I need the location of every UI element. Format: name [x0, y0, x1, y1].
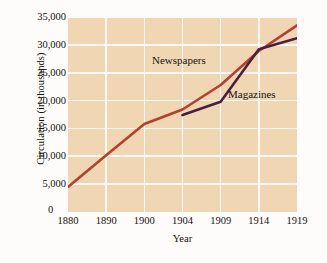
- x-tick-label: 1919: [287, 215, 308, 226]
- y-tick-label: 25,000: [22, 67, 66, 78]
- y-tick-label: 30,000: [22, 40, 66, 51]
- y-tick-label: 35,000: [22, 12, 66, 23]
- x-tick-label: 1900: [134, 215, 155, 226]
- series-line-newspapers: [68, 25, 297, 187]
- chart-figure: Circulation (in thousands) 05,00010,0001…: [0, 0, 327, 263]
- x-tick-label: 1890: [96, 215, 117, 226]
- x-axis-title: Year: [68, 233, 297, 244]
- y-axis-zero-label: 0: [48, 204, 53, 215]
- series-line-magazines: [183, 38, 298, 115]
- y-tick-label: 10,000: [22, 151, 66, 162]
- x-axis-tick-labels: 1880189019001904190919141919: [0, 215, 327, 231]
- plot-area: Newspapers Magazines: [68, 17, 297, 212]
- x-tick-label: 1914: [248, 215, 269, 226]
- series-lines: [68, 17, 297, 212]
- y-tick-label: 5,000: [22, 179, 66, 190]
- x-tick-label: 1909: [210, 215, 231, 226]
- x-tick-label: 1904: [172, 215, 193, 226]
- y-tick-label: 15,000: [22, 123, 66, 134]
- series-label-newspapers: Newspapers: [152, 54, 206, 66]
- y-tick-label: 20,000: [22, 95, 66, 106]
- series-label-magazines: Magazines: [228, 88, 276, 100]
- x-tick-label: 1880: [58, 215, 79, 226]
